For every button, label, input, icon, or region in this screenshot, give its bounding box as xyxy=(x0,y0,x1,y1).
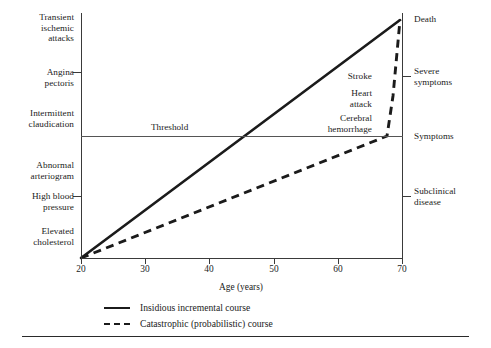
y-axis-left-tick-angina xyxy=(73,72,82,73)
annotation-stroke: Stroke xyxy=(300,71,372,82)
annotation-cerebral-hemorrhage: Cerebral hemorrhage xyxy=(288,113,372,134)
x-tick-label-30: 30 xyxy=(132,264,158,275)
annotation-heart-attack: Heart attack xyxy=(300,88,372,109)
left-label-transient-ischemic-attacks: Transient ischemic attacks xyxy=(0,12,74,44)
left-label-elevated-cholesterol: Elevated cholesterol xyxy=(0,226,74,247)
x-tick-label-50: 50 xyxy=(261,264,287,275)
series-line-catastrophic xyxy=(81,20,400,258)
x-tick-label-60: 60 xyxy=(325,264,351,275)
legend-swatch-dashed-line xyxy=(104,323,130,325)
y-axis-left-tick-high-blood-pressure xyxy=(73,196,82,197)
right-label-severe-symptoms: Severe symptoms xyxy=(414,66,490,87)
x-tick-label-40: 40 xyxy=(196,264,222,275)
x-tick-label-70: 70 xyxy=(389,264,415,275)
y-axis-right-tick-subclinical-disease xyxy=(402,196,411,197)
legend-entry-catastrophic: Catastrophic (probabilistic) course xyxy=(104,317,384,331)
legend-entry-insidious: Insidious incremental course xyxy=(104,301,384,315)
threshold-line xyxy=(81,136,403,137)
legend-label-insidious: Insidious incremental course xyxy=(140,301,250,314)
left-label-high-blood-pressure: High blood pressure xyxy=(0,191,74,212)
footer-rule xyxy=(22,336,469,337)
left-label-intermittent-claudication: Intermittent claudication xyxy=(0,108,74,129)
right-label-death: Death xyxy=(414,14,490,25)
figure-canvas: Threshold Transient ischemic attacks Ang… xyxy=(0,0,491,348)
y-axis-right-tick-severe-symptoms xyxy=(402,76,411,77)
x-axis-title: Age (years) xyxy=(181,282,301,293)
legend-swatch-solid-line xyxy=(104,307,130,309)
legend-label-catastrophic: Catastrophic (probabilistic) course xyxy=(140,317,273,330)
x-tick-label-20: 20 xyxy=(68,264,94,275)
x-axis xyxy=(81,258,403,259)
left-label-angina-pectoris: Angina pectoris xyxy=(0,67,74,88)
threshold-label: Threshold xyxy=(148,122,191,133)
right-label-subclinical-disease: Subclinical disease xyxy=(414,186,490,207)
right-label-symptoms: Symptoms xyxy=(414,131,490,142)
series-line-insidious xyxy=(81,20,400,258)
left-label-abnormal-arteriogram: Abnormal arteriogram xyxy=(0,160,74,181)
